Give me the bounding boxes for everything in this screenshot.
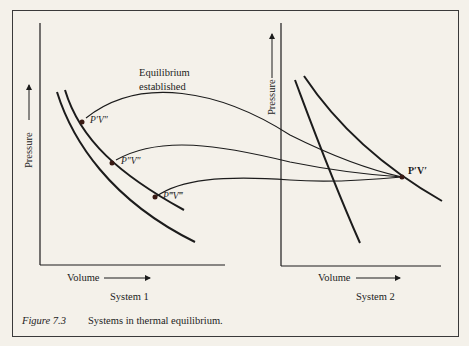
equilibrium-curves	[86, 92, 402, 196]
system1-axes	[40, 23, 225, 265]
system2-title: System 2	[356, 292, 395, 303]
system1-y-axis-label: Pressure	[24, 132, 35, 168]
system2-x-axis-label: Volume	[318, 273, 350, 284]
system1-title: System 1	[110, 292, 149, 303]
annotation-line2: established	[139, 82, 186, 93]
figure-number: Figure 7.3	[22, 316, 66, 327]
system1-x-axis-label: Volume	[67, 273, 99, 284]
annotation-line1: Equilibrium	[139, 68, 190, 79]
system1-point-label-2: P″V″	[121, 157, 141, 167]
thermal-equilibrium-diagram	[0, 0, 469, 346]
system2-point-label: P′V′	[408, 166, 427, 176]
point-p3v3	[153, 195, 158, 200]
system2-axes	[281, 23, 441, 266]
system1-point-label-1: P′V″	[90, 116, 108, 126]
system1-point-label-3: P‴V‴	[163, 192, 183, 202]
point-p2v2	[110, 161, 115, 166]
point-p1v1	[80, 120, 85, 125]
system2-y-axis-label: Pressure	[267, 79, 278, 115]
axis-arrows	[29, 34, 400, 278]
point-pv-system2	[400, 175, 405, 180]
figure-caption: Systems in thermal equilibrium.	[88, 316, 223, 327]
system2-isotherms	[295, 76, 442, 243]
